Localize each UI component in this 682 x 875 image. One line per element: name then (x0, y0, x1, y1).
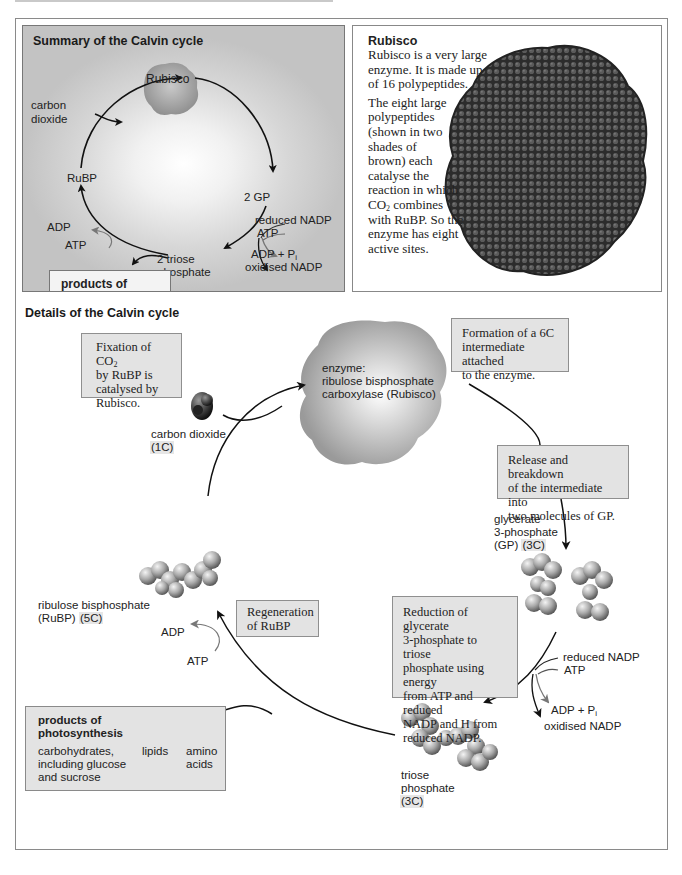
gp-label-1: glycerate (494, 513, 541, 526)
atp-label: ATP (187, 655, 209, 668)
reduced-nadp-label: reduced NADP (563, 651, 640, 664)
release-note: Release and breakdown of the intermediat… (497, 445, 629, 499)
adp-label: ADP (161, 626, 185, 639)
enzyme-label-3: carboxylase (Rubisco) (322, 388, 436, 401)
rubp-molecule-icon (139, 551, 221, 598)
triose-carbons-label: (3C) (400, 795, 424, 808)
reduction-note: Reduction of glycerate 3-phosphate to tr… (392, 596, 518, 698)
enzyme-label-1: enzyme: (322, 362, 365, 375)
products-carbohydrates: carbohydrates, including glucose and suc… (38, 745, 126, 784)
gp-label-3: (GP) (3C) (494, 539, 546, 552)
enzyme-label-2: ribulose bisphosphate (322, 375, 434, 388)
triose-label-1: triose (401, 769, 429, 782)
atp-in-label: ATP (564, 664, 586, 677)
rubp-label-2: (RuBP) (5C) (38, 612, 103, 625)
co2-molecule-icon (191, 392, 213, 420)
fixation-note: Fixation of CO2 by RuBP is catalysed by … (81, 333, 182, 398)
rubp-label-1: ribulose bisphosphate (38, 599, 150, 612)
regeneration-note: Regeneration of RuBP (236, 600, 319, 637)
products-box: products of photosynthesis carbohydrates… (25, 706, 226, 791)
triose-label-2: phosphate (401, 782, 455, 795)
details-title: Details of the Calvin cycle (25, 306, 179, 320)
gp-label-2: 3-phosphate (494, 526, 558, 539)
co2-carbons-label: (1C) (150, 441, 174, 454)
co2-label: carbon dioxide (151, 428, 226, 441)
gp-carbons-label: (3C) (521, 539, 545, 551)
formation-note: Formation of a 6C intermediate attached … (451, 318, 569, 372)
rubp-carbons-label: (5C) (79, 612, 103, 624)
oxidised-nadp-label: oxidised NADP (544, 720, 621, 733)
products-amino-acids: amino acids (186, 745, 217, 771)
adp-pi-label: ADP + Pi (551, 704, 597, 717)
gp-molecule-icon (521, 553, 613, 621)
products-title: products of photosynthesis (38, 714, 123, 740)
products-lipids: lipids (142, 745, 168, 758)
